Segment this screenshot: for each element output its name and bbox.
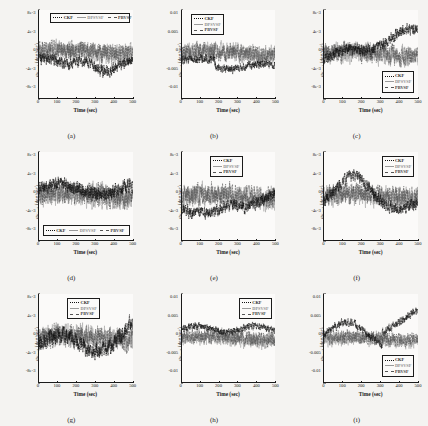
y-tick-label: 4e-3: [27, 312, 35, 317]
panel-a: ωErrx1 (deg/sec)8e-34e-30-4e-3-8e-3CKFDP…: [0, 0, 143, 142]
x-tick-label: 400: [253, 241, 260, 246]
legend-swatch-dpsvsf-icon: [385, 365, 394, 366]
x-tick-label: 500: [129, 383, 136, 388]
panel-f: ωErrz2 (deg/sec)8e-34e-30-4e-3-8e-3CKFDP…: [285, 142, 428, 284]
x-tick-label: 500: [272, 241, 279, 246]
x-tick-label: 400: [396, 241, 403, 246]
y-tick-label: -8e-3: [311, 84, 321, 89]
y-tick-label: 8e-3: [313, 152, 321, 157]
panel-caption: (c): [285, 132, 428, 140]
y-tick-label: -8e-3: [168, 226, 178, 231]
legend: CKFDPSVSFPBVSF: [67, 298, 100, 320]
legend-swatch-dpsvsf-icon: [213, 166, 222, 167]
legend: CKFDPSVSFPBVSF: [50, 13, 130, 23]
plot-area-e: ωErry2 (deg/sec)8e-34e-30-4e-3-8e-3CKFDP…: [165, 150, 278, 254]
axes-box: CKFDPSVSFPBVSF: [323, 10, 418, 99]
y-tick-label: 0: [33, 189, 35, 194]
y-tick-label: 4e-3: [27, 170, 35, 175]
legend-swatch-pbvsf-icon: [194, 30, 203, 31]
x-tick-labels: 0100200300400500: [181, 383, 276, 390]
plot-area-f: ωErrz2 (deg/sec)8e-34e-30-4e-3-8e-3CKFDP…: [307, 150, 420, 254]
legend-entry-pbvsf: PBVSF: [213, 169, 240, 175]
x-tick-labels: 0100200300400500: [181, 241, 276, 248]
legend-swatch-pbvsf-icon: [385, 172, 394, 173]
x-tick-label: 400: [253, 99, 260, 104]
x-tick-label: 0: [37, 383, 39, 388]
x-tick-label: 100: [196, 383, 203, 388]
x-tick-labels: 0100200300400500: [38, 241, 133, 248]
legend-label: PBVSF: [118, 15, 132, 21]
legend-swatch-ckf-icon: [242, 302, 251, 303]
legend-swatch-ckf-icon: [385, 76, 394, 77]
x-tick-label: 100: [196, 241, 203, 246]
panel-h: ωErry3 (deg/sec)0.010.0050-0.005-0.01CKF…: [143, 284, 286, 426]
x-tick-label: 200: [72, 383, 79, 388]
y-tick-label: -4e-3: [26, 65, 36, 70]
legend: CKFDPSVSFPBVSF: [43, 225, 130, 235]
plot-area-d: ωErrx2 (deg/sec)8e-34e-30-4e-3-8e-3CKFDP…: [22, 150, 135, 254]
legend-label: PBVSF: [252, 311, 266, 317]
x-tick-label: 300: [377, 99, 384, 104]
panel-caption: (a): [0, 132, 143, 140]
y-tick-label: 8e-3: [27, 294, 35, 299]
x-tick-label: 200: [358, 99, 365, 104]
y-tick-label: 0: [319, 189, 321, 194]
legend-label: PBVSF: [223, 169, 237, 175]
axes-box: CKFDPSVSFPBVSF: [38, 152, 133, 241]
x-tick-label: 200: [72, 241, 79, 246]
legend-entry-ckf: CKF: [53, 15, 73, 21]
x-tick-label: 500: [272, 99, 279, 104]
y-tick-label: 0: [176, 47, 178, 52]
x-tick-label: 0: [322, 241, 324, 246]
legend-entry-pbvsf: PBVSF: [108, 15, 132, 21]
x-tick-label: 400: [396, 99, 403, 104]
x-tick-labels: 0100200300400500: [181, 99, 276, 106]
y-tick-labels: 0.010.0050-0.005-0.01: [165, 10, 181, 99]
plot-area-b: ωErry1 (deg/sec)0.010.0050-0.005-0.01CKF…: [165, 8, 278, 112]
legend-swatch-dpsvsf-icon: [385, 81, 394, 82]
axes-box: CKFDPSVSFPBVSF: [181, 294, 276, 383]
legend-label: PBVSF: [81, 311, 95, 317]
y-tick-label: 0.005: [310, 312, 320, 317]
legend-swatch-pbvsf-icon: [100, 230, 109, 231]
y-tick-label: 4e-3: [313, 170, 321, 175]
legend-label: PBVSF: [395, 369, 409, 375]
y-tick-labels: 8e-34e-30-4e-3-8e-3: [307, 152, 323, 241]
legend: CKFDPSVSFPBVSF: [210, 156, 243, 178]
x-tick-labels: 0100200300400500: [323, 383, 418, 390]
y-tick-labels: 0.010.0050-0.005-0.01: [165, 294, 181, 383]
legend-swatch-ckf-icon: [194, 18, 203, 19]
legend-swatch-dpsvsf-icon: [385, 166, 394, 167]
y-tick-label: 8e-3: [313, 10, 321, 15]
y-tick-label: -8e-3: [26, 84, 36, 89]
legend: CKFDPSVSFPBVSF: [382, 71, 415, 93]
legend-entry-pbvsf: PBVSF: [70, 311, 97, 317]
axes-box: CKFDPSVSFPBVSF: [323, 294, 418, 383]
x-axis-label: Time (sec): [38, 249, 133, 255]
x-tick-label: 500: [272, 383, 279, 388]
panel-i: ωErrz3 (deg/sec)0.010.0050-0.005-0.01CKF…: [285, 284, 428, 426]
series-plot: [39, 10, 133, 98]
x-tick-label: 300: [377, 241, 384, 246]
x-tick-label: 200: [215, 241, 222, 246]
x-tick-label: 100: [53, 383, 60, 388]
x-tick-label: 0: [180, 383, 182, 388]
x-tick-label: 500: [415, 99, 422, 104]
panel-caption: (g): [0, 416, 143, 424]
x-tick-label: 200: [358, 241, 365, 246]
legend-swatch-ckf-icon: [53, 17, 62, 18]
legend-swatch-pbvsf-icon: [385, 371, 394, 372]
legend-swatch-pbvsf-icon: [385, 87, 394, 88]
y-tick-label: 0: [33, 331, 35, 336]
axes-box: CKFDPSVSFPBVSF: [181, 10, 276, 99]
x-axis-label: Time (sec): [181, 107, 276, 113]
legend-swatch-ckf-icon: [70, 302, 79, 303]
legend: CKFDPSVSFPBVSF: [239, 298, 272, 320]
legend-swatch-dpsvsf-icon: [77, 17, 86, 18]
legend-label: DPSVSF: [87, 15, 103, 21]
legend-label: PBVSF: [205, 27, 219, 33]
x-tick-label: 300: [377, 383, 384, 388]
legend-label: PBVSF: [395, 85, 409, 91]
y-tick-label: -4e-3: [26, 349, 36, 354]
x-tick-label: 300: [234, 383, 241, 388]
